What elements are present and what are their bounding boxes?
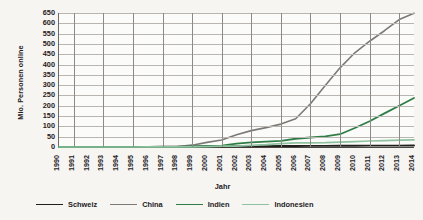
y-tick-label: 600 xyxy=(26,20,55,27)
y-tick-label: 550 xyxy=(26,30,55,37)
horizontal-gridline xyxy=(59,54,414,55)
x-tick-label: 2003 xyxy=(245,137,252,171)
x-tick-label: 2007 xyxy=(304,137,311,171)
y-axis-title: Mio. Personen online xyxy=(13,18,27,146)
legend-label: China xyxy=(142,200,163,209)
x-tick-label: 2014 xyxy=(408,137,415,171)
y-tick-label: 200 xyxy=(26,102,55,109)
x-tick-label: 2008 xyxy=(319,137,326,171)
horizontal-gridline xyxy=(59,85,414,86)
vertical-gridline xyxy=(370,13,371,147)
vertical-gridline xyxy=(281,13,282,147)
x-tick-label: 2004 xyxy=(260,137,267,171)
chart-page: Mio. Personen online 0501001502002503003… xyxy=(0,0,423,220)
vertical-gridline xyxy=(222,13,223,147)
x-tick-label: 1998 xyxy=(171,137,178,171)
x-tick-label: 2009 xyxy=(334,137,341,171)
horizontal-gridline xyxy=(59,65,414,66)
legend-label: Indien xyxy=(208,200,230,209)
chart-legend: SchweizChinaIndienIndonesien xyxy=(36,197,336,211)
horizontal-gridline xyxy=(59,34,414,35)
plot-area xyxy=(58,13,414,148)
y-tick-label: 0 xyxy=(26,143,55,150)
horizontal-gridline xyxy=(59,75,414,76)
y-tick-label: 650 xyxy=(26,9,55,16)
x-tick-label: 2000 xyxy=(201,137,208,171)
x-axis-title-text: Jahr xyxy=(215,182,231,191)
x-tick-label: 2001 xyxy=(216,137,223,171)
x-tick-label: 2002 xyxy=(231,137,238,171)
legend-label: Indonesien xyxy=(274,200,313,209)
vertical-gridline xyxy=(192,13,193,147)
x-tick-label: 1999 xyxy=(186,137,193,171)
legend-swatch-icon xyxy=(242,204,269,205)
vertical-gridline xyxy=(133,13,134,147)
y-tick-label: 100 xyxy=(26,123,55,130)
x-tick-label: 1996 xyxy=(142,137,149,171)
x-tick-label: 1990 xyxy=(53,137,60,171)
x-tick-label: 1994 xyxy=(112,137,119,171)
legend-swatch-icon xyxy=(110,204,137,205)
vertical-gridline xyxy=(251,13,252,147)
y-tick-label: 150 xyxy=(26,112,55,119)
horizontal-gridline xyxy=(59,126,414,127)
legend-swatch-icon xyxy=(176,204,203,205)
horizontal-gridline xyxy=(59,95,414,96)
x-axis-title: Jahr xyxy=(0,182,423,191)
vertical-gridline xyxy=(74,13,75,147)
y-tick-label: 50 xyxy=(26,133,55,140)
horizontal-gridline xyxy=(59,23,414,24)
vertical-gridline xyxy=(310,13,311,147)
x-tick-label: 1993 xyxy=(97,137,104,171)
x-tick-label: 2012 xyxy=(378,137,385,171)
x-tick-label: 1991 xyxy=(68,137,75,171)
x-tick-label: 1992 xyxy=(83,137,90,171)
y-axis-title-text: Mio. Personen online xyxy=(16,45,25,119)
x-tick-label: 2013 xyxy=(393,137,400,171)
x-tick-label: 2011 xyxy=(364,137,371,171)
y-tick-label: 400 xyxy=(26,61,55,68)
vertical-gridline xyxy=(163,13,164,147)
horizontal-gridline xyxy=(59,44,414,45)
y-tick-label: 350 xyxy=(26,71,55,78)
legend-item-indien[interactable]: Indien xyxy=(176,200,230,209)
y-tick-label: 250 xyxy=(26,92,55,99)
legend-swatch-icon xyxy=(36,204,63,205)
x-tick-label: 2005 xyxy=(275,137,282,171)
horizontal-gridline xyxy=(59,13,414,14)
legend-item-indonesien[interactable]: Indonesien xyxy=(242,200,313,209)
legend-item-china[interactable]: China xyxy=(110,200,163,209)
y-tick-label: 450 xyxy=(26,51,55,58)
legend-label: Schweiz xyxy=(68,200,97,209)
x-tick-label: 1995 xyxy=(127,137,134,171)
horizontal-gridline xyxy=(59,116,414,117)
vertical-gridline xyxy=(103,13,104,147)
y-tick-label: 500 xyxy=(26,40,55,47)
vertical-gridline xyxy=(399,13,400,147)
x-axis-tick-labels: 1990199119921993199419951996199719981999… xyxy=(58,149,413,183)
legend-item-schweiz[interactable]: Schweiz xyxy=(36,200,97,209)
x-tick-label: 2010 xyxy=(349,137,356,171)
x-tick-label: 1997 xyxy=(157,137,164,171)
x-tick-label: 2006 xyxy=(290,137,297,171)
horizontal-gridline xyxy=(59,106,414,107)
y-tick-label: 300 xyxy=(26,81,55,88)
vertical-gridline xyxy=(340,13,341,147)
